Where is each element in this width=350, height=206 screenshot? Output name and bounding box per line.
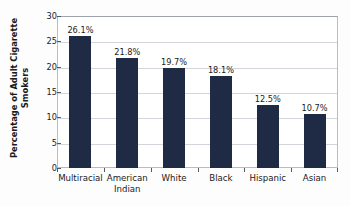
- x-axis-category-line-1: Hispanic: [249, 173, 286, 183]
- x-axis-category-label: Black: [198, 173, 245, 184]
- bar-value-label: 10.7%: [302, 103, 328, 113]
- x-axis-tick-mark: [337, 168, 338, 172]
- y-axis-title-line-1: Percentage of Adult Cigarette: [9, 17, 19, 157]
- y-axis-tick-label: 5: [35, 138, 57, 148]
- y-axis-tick-label: 30: [35, 11, 57, 21]
- bar-group: 19.7%: [151, 16, 198, 168]
- x-axis-category-line-2: Indian: [104, 184, 151, 195]
- y-axis-title-line-2: Smokers: [20, 17, 31, 157]
- x-axis-category-label: Multiracial: [57, 173, 104, 184]
- bar-chart: Percentage of Adult Cigarette Smokers 05…: [0, 0, 350, 206]
- x-axis-category-line-1: Multiracial: [58, 173, 103, 183]
- y-axis: 051015202530: [31, 16, 57, 168]
- bar[interactable]: [257, 105, 279, 168]
- x-axis-category-label: White: [151, 173, 198, 184]
- bar[interactable]: [304, 114, 326, 168]
- bar[interactable]: [163, 68, 185, 168]
- bar[interactable]: [116, 58, 138, 168]
- x-axis-category-line-1: Asian: [303, 173, 326, 183]
- bar-group: 18.1%: [198, 16, 245, 168]
- bar-group: 21.8%: [104, 16, 151, 168]
- y-axis-tick-label: 25: [35, 36, 57, 46]
- y-axis-tick-label: 20: [35, 62, 57, 72]
- bar-value-label: 18.1%: [208, 65, 234, 75]
- y-axis-tick-label: 0: [35, 163, 57, 173]
- bar[interactable]: [210, 76, 232, 168]
- x-axis-tick-mark: [244, 168, 245, 172]
- x-axis-tick-mark: [291, 168, 292, 172]
- y-axis-tick-label: 15: [35, 87, 57, 97]
- bar-group: 26.1%: [57, 16, 104, 168]
- x-axis-category-label: Hispanic: [244, 173, 291, 184]
- bars-layer: 26.1%21.8%19.7%18.1%12.5%10.7%: [57, 16, 338, 168]
- x-axis-labels: MultiracialAmericanIndianWhiteBlackHispa…: [57, 173, 338, 203]
- x-axis-tick-mark: [104, 168, 105, 172]
- x-axis-tick-mark: [57, 168, 58, 172]
- bar-value-label: 19.7%: [161, 57, 187, 67]
- x-axis-tick-mark: [151, 168, 152, 172]
- x-axis-category-label: AmericanIndian: [104, 173, 151, 195]
- x-axis-tick-mark: [198, 168, 199, 172]
- y-axis-tick-label: 10: [35, 112, 57, 122]
- bar[interactable]: [69, 36, 91, 168]
- bar-group: 10.7%: [291, 16, 338, 168]
- x-axis-category-line-1: White: [162, 173, 187, 183]
- x-axis-category-line-1: Black: [209, 173, 232, 183]
- x-axis-category-label: Asian: [291, 173, 338, 184]
- bar-group: 12.5%: [244, 16, 291, 168]
- bar-value-label: 26.1%: [67, 25, 93, 35]
- x-axis-category-line-1: American: [107, 173, 148, 183]
- bar-value-label: 12.5%: [255, 94, 281, 104]
- bar-value-label: 21.8%: [114, 47, 140, 57]
